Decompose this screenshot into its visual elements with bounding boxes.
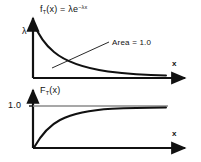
- pdf-label-arg: (x) =: [46, 4, 68, 14]
- pdf-label-exponent-x: x: [85, 4, 88, 10]
- cdf-y-axis-tick-label: 1.0: [8, 101, 21, 110]
- area-annotation: Area = 1.0: [112, 39, 151, 47]
- area-annotation-equals: =: [132, 38, 137, 47]
- cdf-curve: [34, 108, 166, 148]
- area-annotation-leader-line: [52, 42, 109, 68]
- pdf-y-axis-tick-label: λ: [22, 27, 27, 36]
- cdf-label-arg: (x): [49, 85, 60, 95]
- pdf-x-axis-label: x: [172, 60, 177, 68]
- area-annotation-value: 1.0: [139, 38, 151, 47]
- pdf-function-label: fT(x) = λe−λx: [40, 5, 87, 15]
- figure-container: fT(x) = λe−λx λ x Area = 1.0 FT(x) 1.0 x: [0, 0, 201, 162]
- cdf-function-label: FT(x): [40, 86, 60, 96]
- area-annotation-text: Area: [112, 38, 130, 47]
- cdf-axes-group: [33, 90, 185, 148]
- figure-canvas: [0, 0, 201, 162]
- cdf-x-axis-label: x: [172, 130, 177, 138]
- pdf-axes-group: [33, 18, 185, 78]
